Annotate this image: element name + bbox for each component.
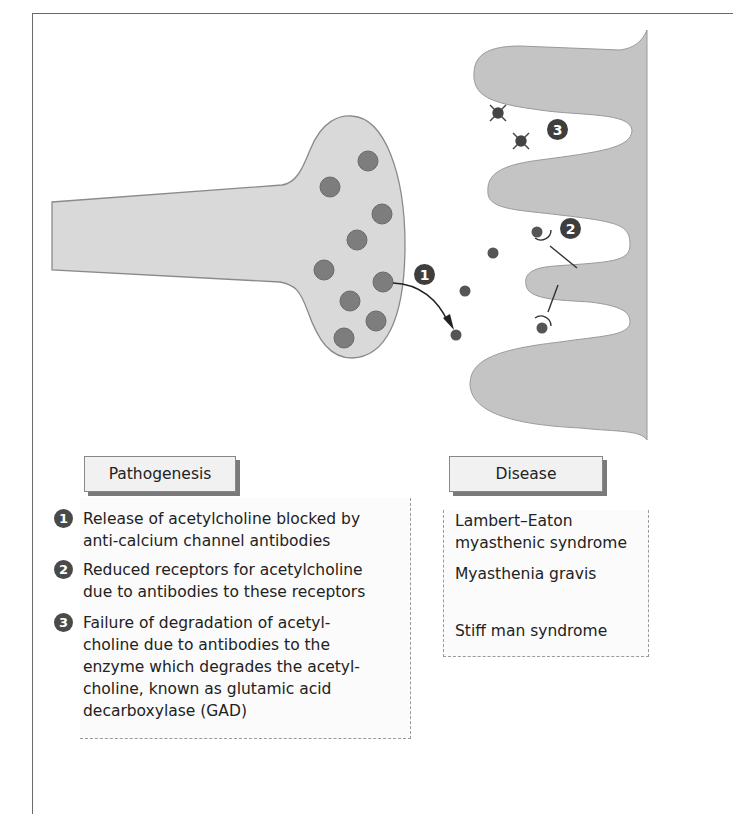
callout-3-badge: 3 (547, 119, 568, 140)
callout-1-badge: 1 (414, 264, 435, 285)
pathogenesis-item-text: Failure of degradation of acetyl- cholin… (83, 612, 383, 722)
disease-item-lambert-eaton: Lambert–Eaton myasthenic syndrome (455, 510, 627, 554)
number-2-icon: 2 (54, 560, 73, 579)
postsynaptic-membrane (470, 30, 647, 440)
disease-header: Disease (449, 456, 603, 492)
number-3-icon: 3 (54, 613, 73, 632)
acetylcholine-molecules (451, 248, 499, 341)
pathogenesis-item-text: Reduced receptors for acetylcholine due … (83, 559, 383, 603)
disease-item-stiff-man: Stiff man syndrome (455, 620, 607, 642)
disease-item-myasthenia-gravis: Myasthenia gravis (455, 563, 596, 585)
disease-header-label: Disease (496, 465, 557, 483)
synapse-diagram (0, 0, 688, 460)
pathogenesis-header: Pathogenesis (84, 456, 236, 492)
blocked-enzyme-icon (490, 105, 529, 149)
pathogenesis-header-label: Pathogenesis (109, 465, 212, 483)
pathogenesis-item-text: Release of acetylcholine blocked by anti… (83, 508, 383, 552)
callout-2-badge: 2 (560, 218, 581, 239)
number-1-icon: 1 (54, 509, 73, 528)
